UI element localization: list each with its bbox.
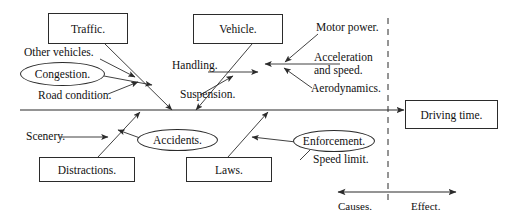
sub-cause-acceleration-line-1: Acceleration [314,51,373,64]
category-box-vehicle[interactable]: Vehicle. [193,14,283,44]
rib-laws [228,112,268,157]
ellipse-enforcement-label: Enforcement. [303,135,365,147]
sub-cause-handling: Handling. [172,59,218,72]
branch-aerodynamics [284,68,312,88]
effect-box-label: Driving time. [421,109,483,121]
effect-box-driving-time[interactable]: Driving time. [405,100,498,129]
sub-cause-acceleration-line-2: and speed. [314,64,363,77]
branch-road-condition [108,82,138,94]
sub-cause-aerodynamics: Aerodynamics. [311,82,381,95]
category-box-laws[interactable]: Laws. [186,157,272,182]
sub-cause-other-vehicles: Other vehicles. [24,46,94,59]
legend-causes-label: Causes. [338,200,372,212]
category-box-distractions[interactable]: Distractions. [39,157,135,182]
branch-speed-limit [300,150,310,160]
sub-cause-motor-power: Motor power. [316,21,379,34]
rib-traffic [105,44,172,110]
category-box-laws-label: Laws. [215,164,243,176]
ellipse-accidents[interactable]: Accidents. [137,129,218,151]
sub-cause-road-condition: Road condition. [38,89,111,102]
ellipse-congestion[interactable]: Congestion. [20,62,105,86]
ellipse-enforcement[interactable]: Enforcement. [293,130,375,152]
category-box-distractions-label: Distractions. [58,164,116,176]
branch-accidents [118,130,140,138]
category-box-traffic[interactable]: Traffic. [48,13,128,44]
legend-effect-label: Effect. [411,200,440,212]
fishbone-diagram: Traffic. Vehicle. Distractions. Laws. Dr… [0,0,514,220]
ellipse-accidents-label: Accidents. [153,134,202,146]
rib-distractions [98,112,140,157]
ellipse-congestion-label: Congestion. [35,68,90,80]
branch-congestion [104,76,152,85]
sub-cause-suspension: Suspension. [180,88,235,101]
category-box-traffic-label: Traffic. [71,23,105,35]
branch-enforcement [252,137,296,142]
category-box-vehicle-label: Vehicle. [219,23,256,35]
sub-cause-scenery: Scenery. [26,130,65,143]
sub-cause-speed-limit: Speed limit. [313,153,369,166]
